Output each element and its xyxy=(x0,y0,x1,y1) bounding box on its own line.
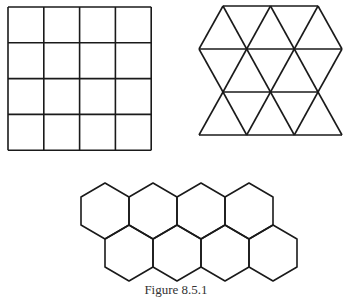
hexagon-tiling xyxy=(81,183,297,281)
figure-caption: Figure 8.5.1 xyxy=(0,283,352,297)
triangle-tiling xyxy=(199,6,342,135)
square-tiling xyxy=(8,7,151,150)
